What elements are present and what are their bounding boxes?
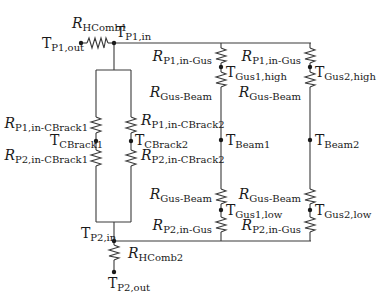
label-r-gus-beam-low-col2: RGus-Beam [238, 186, 302, 204]
label-r-p1-cbrack1: RP1,in-CBrack1 [3, 115, 88, 133]
resistor-p2-cbrack2-symbol [126, 150, 136, 166]
resistor-p1-cbrack2-symbol [126, 117, 136, 133]
node-beam2-dot [308, 138, 312, 142]
label-r-gus-beam-high-col1: RGus-Beam [149, 84, 213, 102]
node-gus2-low-dot [308, 208, 312, 212]
thermal-network-diagram: TP1,out TP1,in TP2,in TP2,out TCBrack1 T… [0, 0, 382, 307]
node-cbrack2-dot [129, 139, 133, 143]
label-r-p1-gus-col2: RP1,in-Gus [241, 48, 301, 66]
resistor-p2-gus-col1-symbol [216, 217, 226, 232]
node-p1-in-dot [112, 41, 116, 45]
label-t-gus2-low: TGus2,low [315, 202, 372, 220]
label-t-beam1: TBeam1 [226, 132, 270, 150]
resistor-hcomb2-symbol [109, 245, 119, 260]
label-t-beam2: TBeam2 [315, 132, 359, 150]
label-r-p1-cbrack2: RP1,in-CBrack2 [140, 112, 225, 130]
resistor-hcomb1-symbol [87, 38, 108, 48]
label-t-gus1-high: TGus1,high [226, 64, 287, 82]
label-r-p2-gus-col1: RP2,in-Gus [152, 217, 212, 235]
label-t-p2-in: TP2,in [81, 225, 117, 243]
resistor-p1-gus-col2-symbol [305, 48, 315, 63]
label-r-hcomb1: RHComb1 [71, 15, 127, 33]
resistor-p2-cbrack1-symbol [91, 150, 101, 166]
label-r-hcomb2: RHComb2 [127, 245, 183, 263]
label-t-p1-out: TP1,out [42, 35, 84, 53]
node-beam1-dot [219, 138, 223, 142]
resistor-gus-beam-high-col2-symbol [305, 72, 315, 87]
resistor-p2-gus-col2-symbol [305, 217, 315, 232]
label-r-gus-beam-low-col1: RGus-Beam [149, 186, 213, 204]
label-t-cbrack1: TCBrack1 [50, 132, 103, 150]
resistor-gus-beam-high-col1-symbol [216, 72, 226, 87]
label-t-p2-out: TP2,out [108, 275, 150, 293]
label-r-p1-gus-col1: RP1,in-Gus [152, 48, 212, 66]
node-p2-out-dot [112, 270, 116, 274]
label-t-gus1-low: TGus1,low [226, 202, 283, 220]
label-r-gus-beam-high-col2: RGus-Beam [238, 84, 302, 102]
resistor-p1-cbrack1-symbol [91, 117, 101, 133]
node-gus1-high-dot [219, 65, 223, 69]
label-t-gus2-high: TGus2,high [315, 64, 376, 82]
resistor-p1-gus-col1-symbol [216, 48, 226, 63]
resistor-gus-beam-low-col2-symbol [305, 189, 315, 204]
resistor-gus-beam-low-col1-symbol [216, 189, 226, 204]
node-gus2-high-dot [308, 65, 312, 69]
node-gus1-low-dot [219, 208, 223, 212]
